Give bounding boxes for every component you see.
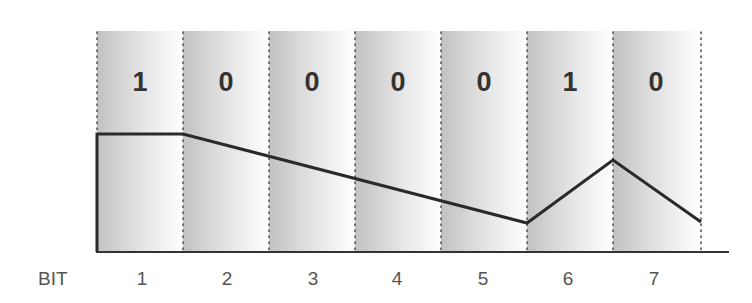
axis-tick-6: 6 <box>563 268 574 289</box>
bit-value-5: 0 <box>476 67 491 97</box>
bit-column-4 <box>355 31 441 252</box>
bit-value-2: 0 <box>218 67 233 97</box>
bit-value-1: 1 <box>132 67 147 97</box>
bit-value-7: 0 <box>648 67 663 97</box>
bit-column-6 <box>527 31 613 252</box>
bit-column-1 <box>97 31 183 252</box>
axis-tick-4: 4 <box>392 268 403 289</box>
axis-title: BIT <box>38 268 68 289</box>
bit-value-4: 0 <box>390 67 405 97</box>
axis-tick-3: 3 <box>308 268 319 289</box>
axis-tick-1: 1 <box>137 268 148 289</box>
bit-column-2 <box>183 31 269 252</box>
bit-column-7 <box>613 31 701 252</box>
axis-tick-2: 2 <box>222 268 233 289</box>
bit-waveform-diagram: 1 0 0 0 0 1 0 BIT 1 2 3 4 5 6 7 <box>0 0 752 303</box>
bit-axis: BIT 1 2 3 4 5 6 7 <box>38 268 659 289</box>
bit-value-6: 1 <box>562 67 577 97</box>
bit-columns <box>97 31 701 252</box>
bit-column-3 <box>269 31 355 252</box>
axis-tick-7: 7 <box>649 268 660 289</box>
bit-value-3: 0 <box>304 67 319 97</box>
axis-tick-5: 5 <box>478 268 489 289</box>
